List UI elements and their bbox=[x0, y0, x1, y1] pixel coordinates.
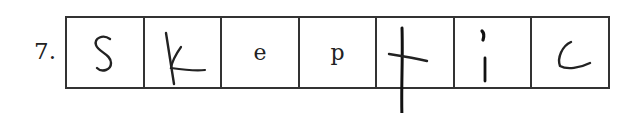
handwritten-i-glyph bbox=[455, 18, 533, 91]
letter-cell-7[interactable] bbox=[532, 18, 608, 87]
printed-letter: p bbox=[330, 40, 344, 65]
letter-cell-1[interactable] bbox=[67, 18, 145, 87]
item-number: 7. bbox=[34, 38, 56, 64]
letter-cell-3[interactable]: e bbox=[222, 18, 300, 87]
letter-cell-4[interactable]: p bbox=[300, 18, 378, 87]
handwritten-s-glyph bbox=[67, 18, 145, 91]
letter-cell-6[interactable] bbox=[455, 18, 533, 87]
handwritten-t-glyph bbox=[377, 18, 455, 113]
letter-grid: e p bbox=[65, 16, 610, 89]
letter-cell-2[interactable] bbox=[145, 18, 223, 87]
printed-letter: e bbox=[253, 40, 266, 65]
handwritten-c-glyph bbox=[532, 18, 610, 91]
handwritten-k-glyph bbox=[145, 18, 223, 91]
letter-cell-5[interactable] bbox=[377, 18, 455, 87]
